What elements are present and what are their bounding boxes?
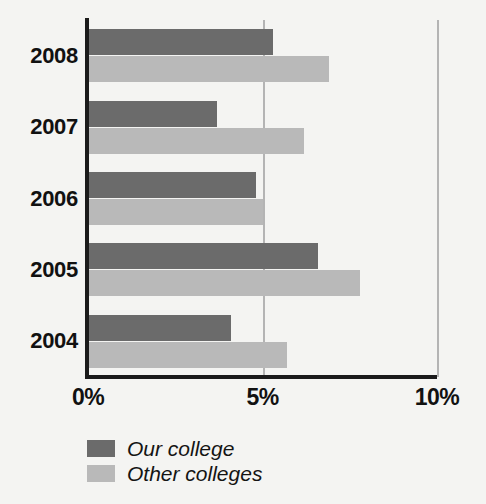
bar-2004-other-colleges <box>88 342 287 368</box>
legend-swatch-other-colleges <box>87 465 115 482</box>
legend-item-our-college[interactable]: Our college <box>87 436 262 461</box>
y-tick-label-2005: 2005 <box>8 259 78 281</box>
bar-2007-our-college <box>88 101 217 127</box>
x-axis-tick-labels: 0%5%10% <box>0 385 486 417</box>
gridline-10pct <box>437 20 439 377</box>
legend-label-our-college: Our college <box>127 438 234 459</box>
bar-2007-other-colleges <box>88 128 304 154</box>
y-tick-label-2007: 2007 <box>8 116 78 138</box>
y-tick-label-2006: 2006 <box>8 188 78 210</box>
y-tick-label-2008: 2008 <box>8 45 78 67</box>
legend-item-other-colleges[interactable]: Other colleges <box>87 461 262 486</box>
bar-2005-other-colleges <box>88 270 360 296</box>
y-axis-line <box>85 18 89 379</box>
bars-layer <box>88 20 437 377</box>
bar-2004-our-college <box>88 315 231 341</box>
bar-chart: 20082007200620052004 0%5%10% Our college… <box>0 0 486 504</box>
legend-label-other-colleges: Other colleges <box>127 463 262 484</box>
x-axis-line <box>85 375 437 379</box>
bar-2006-our-college <box>88 172 256 198</box>
legend-swatch-our-college <box>87 440 115 457</box>
bar-2008-our-college <box>88 29 273 55</box>
bar-2008-other-colleges <box>88 56 329 82</box>
chart-legend: Our collegeOther colleges <box>87 436 262 486</box>
x-tick-label-10pct: 10% <box>377 385 486 410</box>
x-tick-label-5pct: 5% <box>203 385 323 410</box>
y-axis-tick-labels: 20082007200620052004 <box>8 20 78 377</box>
bar-2006-other-colleges <box>88 199 263 225</box>
bar-2005-our-college <box>88 243 318 269</box>
x-tick-label-0pct: 0% <box>28 385 148 410</box>
y-tick-label-2004: 2004 <box>8 330 78 352</box>
